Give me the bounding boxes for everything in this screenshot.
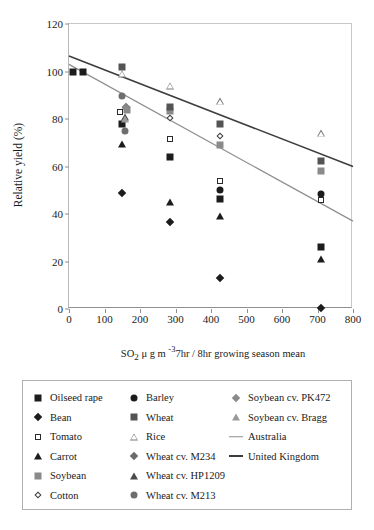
data-point — [216, 213, 224, 220]
filled-diamond-icon — [31, 411, 45, 423]
legend-item-label: Bean — [50, 412, 72, 423]
data-point — [167, 136, 173, 142]
legend-item[interactable]: Wheat cv. M213 — [127, 486, 225, 506]
trendline-united-kingdom — [69, 56, 353, 166]
legend-item[interactable]: Wheat — [127, 408, 225, 428]
legend-item-label: Wheat cv. M234 — [146, 451, 216, 462]
legend-column: Soybean cv. PK472Soybean cv. BraggAustra… — [229, 388, 330, 466]
data-point — [318, 244, 325, 251]
dark-gray-square-icon — [127, 411, 141, 423]
legend-item-label: Barley — [146, 392, 174, 403]
chart-container: Relative yield (%) SO2 μ g m -37hr / 8hr… — [0, 0, 374, 340]
legend-item-label: Rice — [146, 431, 165, 442]
y-axis-label: Relative yield (%) — [12, 80, 24, 250]
data-point — [80, 68, 87, 75]
filled-square-icon — [31, 392, 45, 404]
x-axis-label-units: μ g m — [139, 348, 169, 359]
data-point — [216, 195, 223, 202]
open-triangle-icon — [127, 431, 141, 443]
data-point — [318, 157, 325, 164]
legend-item[interactable]: Carrot — [31, 447, 103, 467]
data-point — [318, 168, 325, 175]
legend-item-label: Soybean cv. Bragg — [248, 412, 327, 423]
trendline-australia — [69, 64, 353, 221]
legend-item[interactable]: Tomato — [31, 427, 103, 447]
data-point — [121, 127, 128, 134]
x-axis-tick-mark — [69, 309, 70, 313]
data-point — [118, 93, 125, 100]
legend-item-label: Soybean — [50, 470, 86, 481]
line-dark-icon — [229, 450, 243, 462]
legend-item-label: Oilseed rape — [50, 392, 103, 403]
x-axis-tick-mark — [105, 309, 106, 313]
data-point — [166, 82, 174, 89]
x-axis-tick-mark — [211, 309, 212, 313]
data-point — [318, 197, 324, 203]
legend-item-label: Wheat cv. HP1209 — [146, 470, 225, 481]
line-gray-icon — [229, 431, 243, 443]
data-point — [216, 142, 223, 149]
legend-item-label: Wheat cv. M213 — [146, 490, 216, 501]
legend-item[interactable]: Wheat cv. M234 — [127, 447, 225, 467]
legend-column: Oilseed rapeBeanTomatoCarrotSoybeanCotto… — [31, 388, 103, 505]
data-point — [167, 154, 174, 161]
data-point — [118, 70, 126, 77]
data-point — [216, 187, 223, 194]
data-point — [317, 130, 325, 137]
data-point — [167, 104, 174, 111]
data-point — [118, 63, 125, 70]
legend-item[interactable]: Rice — [127, 427, 225, 447]
data-point — [166, 199, 174, 206]
legend: Oilseed rapeBeanTomatoCarrotSoybeanCotto… — [22, 380, 352, 510]
x-axis-tick-mark — [282, 309, 283, 313]
dark-triangle-icon — [127, 470, 141, 482]
legend-item[interactable]: Wheat cv. HP1209 — [127, 466, 225, 486]
x-axis-label-base: SO — [121, 348, 134, 359]
legend-column: BarleyWheatRiceWheat cv. M234Wheat cv. H… — [127, 388, 225, 505]
legend-item[interactable]: Bean — [31, 408, 103, 428]
data-point — [217, 178, 223, 184]
legend-item-label: Cotton — [50, 490, 79, 501]
filled-triangle-icon — [31, 450, 45, 462]
open-square-icon — [31, 431, 45, 443]
legend-item[interactable]: Soybean — [31, 466, 103, 486]
legend-item-label: Tomato — [50, 431, 82, 442]
gray-triangle-sm-icon — [229, 411, 243, 423]
open-diamond-icon — [31, 489, 45, 501]
data-point — [121, 116, 129, 123]
x-axis-tick-mark — [176, 309, 177, 313]
gray-circle-icon — [127, 489, 141, 501]
gray-square-icon — [31, 470, 45, 482]
legend-item[interactable]: Soybean cv. PK472 — [229, 388, 330, 408]
gray-diamond-icon — [127, 450, 141, 462]
legend-item[interactable]: Cotton — [31, 486, 103, 506]
data-point — [216, 120, 223, 127]
legend-item-label: Wheat — [146, 412, 173, 423]
legend-item[interactable]: Soybean cv. Bragg — [229, 408, 330, 428]
legend-item-label: Australia — [248, 431, 287, 442]
x-axis-tick-mark — [353, 309, 354, 313]
filled-circle-icon — [127, 392, 141, 404]
x-axis-tick-mark — [247, 309, 248, 313]
legend-item[interactable]: United Kingdom — [229, 447, 330, 467]
legend-item[interactable]: Oilseed rape — [31, 388, 103, 408]
data-point — [216, 98, 224, 105]
gray-diamond-sm-icon — [229, 392, 243, 404]
legend-item-label: Soybean cv. PK472 — [248, 392, 330, 403]
data-point — [317, 256, 325, 263]
x-axis-tick-mark — [140, 309, 141, 313]
x-axis-label: SO2 μ g m -37hr / 8hr growing season mea… — [68, 344, 358, 362]
data-point — [69, 68, 76, 75]
data-point — [118, 140, 126, 147]
legend-item-label: United Kingdom — [248, 451, 319, 462]
data-point — [318, 190, 325, 197]
x-axis-label-tail: 7hr / 8hr growing season mean — [175, 348, 305, 359]
plot-frame: 020406080100120 010020030040050060070080… — [68, 23, 352, 308]
legend-item[interactable]: Australia — [229, 427, 330, 447]
trendline-layer — [69, 24, 353, 309]
legend-item[interactable]: Barley — [127, 388, 225, 408]
legend-item-label: Carrot — [50, 451, 77, 462]
